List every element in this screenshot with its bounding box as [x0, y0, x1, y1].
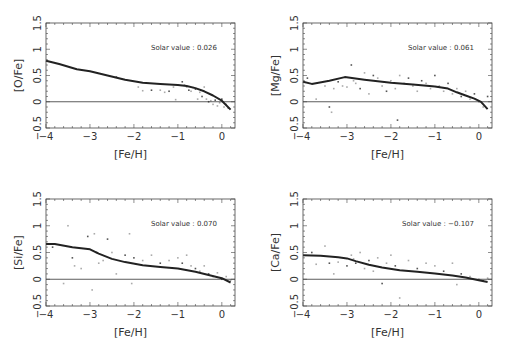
- y-tick-label: 0: [289, 276, 300, 282]
- y-tick-label: 0.5: [289, 245, 300, 261]
- plot-frame: [46, 23, 235, 128]
- x-tick-label: 0: [476, 131, 482, 142]
- y-tick-label: 0.5: [289, 68, 300, 84]
- abundance-ratio-figure: −4−3−2−10−0.500.511.5[Fe/H][O/Fe]Solar v…: [0, 0, 506, 351]
- model-curve: [46, 244, 231, 283]
- x-axis-label: [Fe/H]: [114, 326, 147, 339]
- y-tick-label: 0.5: [32, 245, 43, 261]
- x-tick-label: 0: [219, 309, 225, 320]
- x-tick-label: −2: [127, 131, 142, 142]
- x-tick-label: −1: [427, 309, 442, 320]
- y-tick-label: 0: [32, 99, 43, 105]
- model-curve: [303, 255, 488, 282]
- y-tick-label: 0: [32, 276, 43, 282]
- y-tick-label: 0: [289, 99, 300, 105]
- x-axis-label: [Fe/H]: [371, 326, 404, 339]
- x-tick-label: −3: [83, 131, 98, 142]
- x-tick-label: −2: [127, 309, 142, 320]
- plot-frame: [46, 199, 235, 306]
- y-tick-label: 1.5: [289, 191, 300, 207]
- y-tick-label: −0.5: [289, 116, 300, 140]
- solar-value-annotation: Solar value : 0.026: [151, 44, 218, 52]
- y-tick-label: 1.5: [289, 15, 300, 31]
- y-tick-label: −0.5: [32, 294, 43, 318]
- x-axis-label: [Fe/H]: [371, 148, 404, 161]
- x-tick-label: −1: [427, 131, 442, 142]
- x-tick-label: −3: [83, 309, 98, 320]
- y-tick-label: 1: [289, 46, 300, 52]
- y-axis-label: [Ca/Fe]: [269, 233, 282, 272]
- scatter-points: [52, 225, 232, 291]
- plot-frame: [303, 199, 492, 306]
- x-tick-label: −3: [340, 309, 355, 320]
- x-tick-label: −2: [384, 309, 399, 320]
- panel-sife: −4−3−2−10−0.500.511.5[Fe/H][Si/Fe]Solar …: [12, 191, 235, 339]
- x-tick-label: 0: [219, 131, 225, 142]
- y-axis-label: [Mg/Fe]: [269, 55, 282, 96]
- panel-cafe: −4−3−2−10−0.500.511.5[Fe/H][Ca/Fe]Solar …: [269, 191, 492, 339]
- y-tick-label: 1: [32, 46, 43, 52]
- panel-ofe: −4−3−2−10−0.500.511.5[Fe/H][O/Fe]Solar v…: [12, 15, 235, 161]
- panel-mgfe: −4−3−2−10−0.500.511.5[Fe/H][Mg/Fe]Solar …: [269, 15, 492, 161]
- x-tick-label: −1: [170, 309, 185, 320]
- y-tick-label: 1.5: [32, 15, 43, 31]
- figure-canvas: −4−3−2−10−0.500.511.5[Fe/H][O/Fe]Solar v…: [0, 0, 506, 351]
- x-tick-label: 0: [476, 309, 482, 320]
- solar-value-annotation: Solar value : −0.107: [402, 220, 474, 228]
- y-axis-label: [O/Fe]: [12, 59, 25, 92]
- solar-value-annotation: Solar value : 0.061: [408, 44, 474, 52]
- model-curve: [303, 77, 488, 109]
- model-curve: [46, 61, 231, 110]
- y-tick-label: −0.5: [32, 116, 43, 140]
- y-axis-label: [Si/Fe]: [12, 235, 25, 270]
- y-tick-label: 1: [32, 223, 43, 229]
- y-tick-label: 0.5: [32, 68, 43, 84]
- x-tick-label: −3: [340, 131, 355, 142]
- y-tick-label: −0.5: [289, 294, 300, 318]
- x-axis-label: [Fe/H]: [114, 148, 147, 161]
- x-tick-label: −1: [170, 131, 185, 142]
- scatter-points: [307, 64, 489, 121]
- x-tick-label: −2: [384, 131, 399, 142]
- y-tick-label: 1: [289, 223, 300, 229]
- solar-value-annotation: Solar value : 0.070: [151, 220, 217, 228]
- scatter-points: [311, 245, 488, 298]
- y-tick-label: 1.5: [32, 191, 43, 207]
